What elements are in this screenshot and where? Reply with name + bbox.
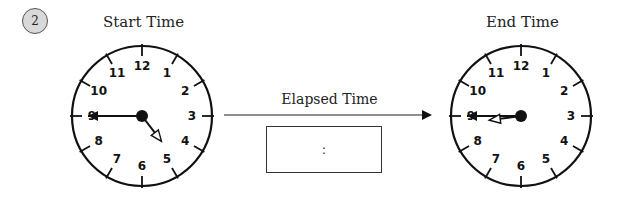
svg-text:7: 7: [492, 152, 500, 166]
elapsed-arrow-icon: [224, 108, 434, 122]
svg-text:12: 12: [134, 59, 151, 73]
problem-number-badge: 2: [22, 8, 48, 34]
svg-text:1: 1: [163, 66, 171, 80]
svg-text:6: 6: [517, 159, 525, 173]
svg-text:10: 10: [90, 84, 107, 98]
problem-number: 2: [31, 14, 39, 28]
svg-text:10: 10: [469, 84, 486, 98]
end-clock: 121234567891011: [449, 40, 594, 190]
answer-colon: :: [322, 142, 326, 157]
svg-text:8: 8: [95, 134, 103, 148]
svg-text:11: 11: [488, 66, 505, 80]
svg-text:2: 2: [181, 84, 189, 98]
start-time-title: Start Time: [103, 13, 184, 31]
end-time-title: End Time: [486, 13, 559, 31]
start-clock: 121234567891011: [70, 40, 215, 190]
svg-text:3: 3: [567, 109, 575, 123]
elapsed-time-label: Elapsed Time: [262, 91, 397, 107]
elapsed-time-answer-box[interactable]: :: [266, 126, 382, 173]
svg-text:5: 5: [163, 152, 171, 166]
svg-text:7: 7: [113, 152, 121, 166]
svg-text:4: 4: [181, 134, 189, 148]
svg-text:1: 1: [542, 66, 550, 80]
svg-text:3: 3: [188, 109, 196, 123]
svg-text:6: 6: [138, 159, 146, 173]
svg-text:5: 5: [542, 152, 550, 166]
svg-text:11: 11: [109, 66, 126, 80]
svg-text:8: 8: [474, 134, 482, 148]
svg-text:4: 4: [560, 134, 568, 148]
svg-text:12: 12: [513, 59, 530, 73]
svg-text:2: 2: [560, 84, 568, 98]
